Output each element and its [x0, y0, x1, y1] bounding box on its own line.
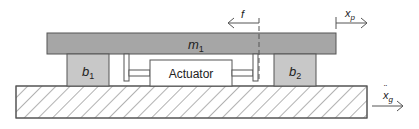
force-label: f — [241, 8, 245, 20]
actuator-label: Actuator — [169, 67, 214, 81]
ground-base — [16, 86, 367, 118]
isolation-diagram: m1 b1 b2 Actuator f xp — [0, 0, 419, 129]
ground-accel-arrow: xg ¨ — [372, 83, 403, 111]
mass-plate: m1 — [47, 33, 336, 54]
damper-right: b2 — [274, 54, 316, 86]
actuator: Actuator — [124, 54, 258, 86]
double-dot-accent: ¨ — [384, 83, 387, 93]
displacement-arrow: xp — [336, 7, 367, 29]
damper-left: b1 — [67, 54, 109, 86]
displacement-label: xp — [344, 7, 356, 22]
